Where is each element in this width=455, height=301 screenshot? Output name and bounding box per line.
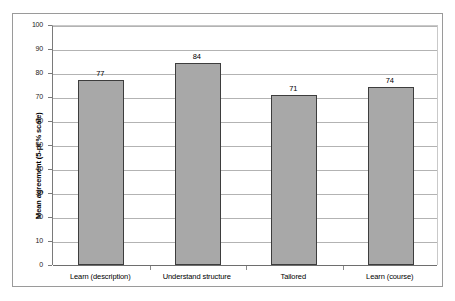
gridline xyxy=(53,265,437,266)
y-axis-tick-label: 30 xyxy=(17,189,43,196)
gridline xyxy=(53,50,437,51)
x-axis-tick xyxy=(246,266,247,270)
x-axis-category-label: Learn (course) xyxy=(330,272,450,281)
y-axis-tick-label: 90 xyxy=(17,45,43,52)
y-axis-tick-label: 100 xyxy=(17,21,43,28)
bar xyxy=(271,95,317,265)
y-axis-tick-label: 0 xyxy=(17,261,43,268)
bar xyxy=(78,80,124,265)
y-axis-tick xyxy=(48,265,52,266)
y-axis-tick-label: 50 xyxy=(17,141,43,148)
chart-frame: Mean agreement (5-pt % scale) 0102030405… xyxy=(12,13,443,287)
y-axis-tick-label: 10 xyxy=(17,237,43,244)
bar xyxy=(175,63,221,265)
y-axis-tick-label: 20 xyxy=(17,213,43,220)
bar-value-label: 84 xyxy=(177,52,217,61)
bar xyxy=(368,87,414,265)
bar-value-label: 77 xyxy=(80,69,120,78)
y-axis-tick-label: 70 xyxy=(17,93,43,100)
y-axis-tick-label: 80 xyxy=(17,69,43,76)
gridline xyxy=(53,26,437,27)
x-axis-tick xyxy=(343,266,344,270)
bar-value-label: 74 xyxy=(370,76,410,85)
y-axis-tick-label: 40 xyxy=(17,165,43,172)
plot-area xyxy=(52,25,438,265)
bar-value-label: 71 xyxy=(273,84,313,93)
x-axis-tick xyxy=(150,266,151,270)
y-axis-tick-label: 60 xyxy=(17,117,43,124)
